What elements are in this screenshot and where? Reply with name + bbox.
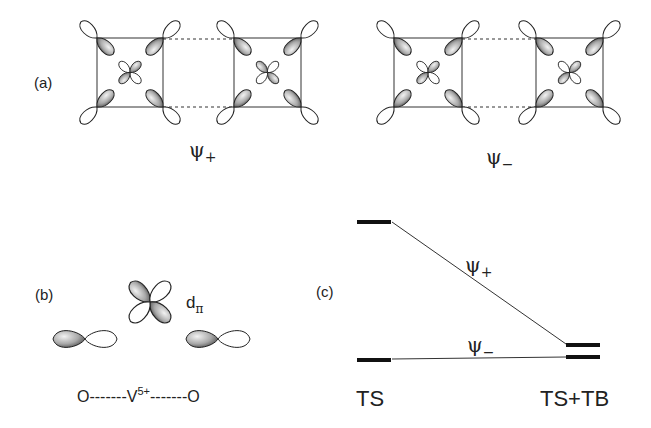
tstb-upper-level — [566, 343, 600, 347]
ts-label: TS — [356, 386, 384, 411]
figure: (a) ψ+ ψ− (b) dπ O-------V5+-------O (c)… — [0, 0, 651, 428]
square-1 — [77, 18, 183, 127]
p-orbital-right — [186, 331, 250, 348]
psi-minus-label-a: ψ− — [486, 145, 513, 172]
psi-plus-correlation-line — [392, 222, 566, 344]
central-d-orbital — [415, 59, 442, 86]
psi-plus-label-a: ψ+ — [189, 138, 216, 165]
panel-c-label: (c) — [316, 283, 334, 300]
o-v-o-chain: O-------V5+-------O — [77, 385, 200, 405]
tstb-lower-level — [566, 355, 600, 359]
ts-upper-level — [357, 220, 391, 224]
d-pi-label: dπ — [186, 293, 203, 316]
ts-lower-level — [357, 358, 391, 362]
central-d-orbital — [117, 59, 144, 86]
ts-tb-label: TS+TB — [540, 386, 609, 411]
panel-a-diagram — [77, 18, 623, 127]
square-2 — [214, 18, 321, 127]
square-4 — [516, 18, 623, 127]
central-d-orbital — [254, 59, 281, 86]
panel-b-label: (b) — [35, 286, 53, 303]
square-3 — [374, 18, 482, 127]
psi-minus-correlation-line — [392, 357, 566, 359]
psi-minus-label-c: ψ− — [467, 333, 494, 360]
p-orbital-left — [53, 331, 117, 348]
central-d-orbital — [556, 59, 583, 86]
psi-plus-label-c: ψ+ — [465, 253, 492, 280]
d-pi-orbital — [125, 277, 174, 326]
panel-a-label: (a) — [34, 74, 52, 91]
